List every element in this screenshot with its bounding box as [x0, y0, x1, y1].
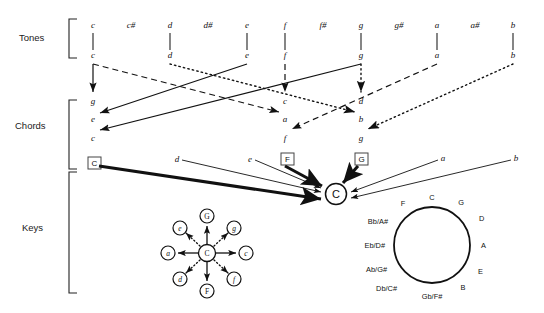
chord-g-major-member-g: g	[359, 133, 364, 143]
tones-chromatic-row: c c# d d# e f f# g g# a a# b	[91, 20, 516, 30]
tone-e: e	[245, 20, 249, 30]
level-label-chords: Chords	[15, 120, 46, 131]
key-source-b: b	[514, 153, 519, 163]
tone-a: a	[435, 20, 440, 30]
key-edge-from-C	[99, 166, 321, 199]
chord-group-c-major: g e c C	[88, 96, 101, 169]
star-edge-to-g	[214, 233, 228, 246]
cof-label-E: E	[478, 267, 483, 276]
tone-stems	[93, 33, 513, 50]
key-source-e: e	[248, 154, 252, 164]
cof-label-A: A	[481, 241, 486, 250]
level-label-keys: Keys	[22, 222, 43, 233]
star-node-center-label: C	[204, 249, 209, 258]
key-target[interactable]: C	[326, 184, 347, 205]
edge-g-to-c-chord	[100, 64, 361, 130]
chord-c-major-member-g: g	[91, 96, 96, 106]
star-node-f-label: f	[233, 275, 236, 284]
tone-c: c	[91, 20, 95, 30]
star-edge-to-d	[186, 260, 200, 273]
cof-label-D: D	[479, 214, 484, 223]
tone-to-chord-edges	[93, 64, 513, 130]
cof-label-F: F	[401, 199, 406, 208]
tone-b: b	[511, 20, 516, 30]
tone-d: d	[168, 20, 173, 30]
tone-nat-b: b	[511, 50, 516, 60]
chord-f-major-member-f: f	[284, 133, 288, 143]
diagram-canvas: Tones Chords Keys c c# d d# e f f# g g# …	[0, 0, 544, 313]
tone-f-sharp: f#	[319, 20, 327, 30]
edge-b-to-g-chord	[368, 64, 513, 129]
star-diagram: C G g c f F d a e	[161, 209, 253, 298]
level-label-tones: Tones	[19, 32, 45, 43]
key-source-labels: d e a b	[175, 153, 519, 164]
tone-g-sharp: g#	[395, 20, 405, 30]
bracket-keys	[69, 172, 77, 293]
cof-label-B: B	[461, 283, 466, 292]
edge-e-to-c-chord	[100, 64, 247, 113]
level-keys: Keys	[22, 172, 77, 293]
bracket-tones	[69, 19, 77, 58]
tone-c-sharp: c#	[127, 20, 136, 30]
tone-nat-g: g	[359, 50, 364, 60]
circle-of-fifths-ring[interactable]	[394, 207, 470, 283]
cof-label-EbDs: Eb/D#	[364, 241, 385, 250]
chord-g-major-member-b: b	[359, 114, 364, 124]
star-node-G-label: G	[204, 212, 210, 221]
cof-label-GbFs: Gb/F#	[422, 292, 443, 301]
chord-group-f-major: c a f F	[281, 96, 294, 165]
tone-f: f	[284, 20, 288, 30]
key-edge-from-G	[343, 166, 358, 183]
tone-d-sharp: d#	[204, 20, 214, 30]
level-tones: Tones	[19, 19, 77, 58]
cof-label-C: C	[429, 193, 435, 202]
tones-natural-row: c d e f g a b	[91, 50, 516, 60]
chord-f-major-member-c: c	[283, 96, 287, 106]
edge-a-to-f-chord	[292, 64, 437, 129]
tone-nat-d: d	[168, 50, 173, 60]
key-source-d: d	[175, 154, 180, 164]
chord-c-major-member-c: c	[91, 133, 95, 143]
star-edge-to-e	[186, 233, 200, 246]
key-target-label: C	[332, 188, 340, 200]
chord-c-major-root-label: C	[92, 159, 98, 168]
chord-g-major-member-d: d	[359, 96, 364, 106]
cof-label-DbCs: Db/C#	[376, 284, 398, 293]
chord-c-major-member-e: e	[91, 114, 95, 124]
tone-nat-c: c	[91, 50, 95, 60]
chord-f-major-root-label: F	[285, 155, 290, 164]
chord-f-major-member-a: a	[283, 114, 288, 124]
bracket-chords	[69, 100, 77, 169]
diagram-svg: Tones Chords Keys c c# d d# e f f# g g# …	[0, 0, 544, 313]
key-convergence-edges	[99, 160, 511, 199]
cof-label-G: G	[458, 198, 464, 207]
tone-a-sharp: a#	[471, 20, 481, 30]
edge-c-to-f-chord	[93, 64, 279, 112]
star-node-d-label: d	[178, 275, 182, 284]
tone-nat-e: e	[245, 50, 249, 60]
star-edge-to-f	[214, 260, 228, 273]
star-node-F-label: F	[205, 287, 209, 296]
tone-g: g	[359, 20, 364, 30]
circle-of-fifths: C G D A E B Gb/F# Db/C# Ab/G# Eb/D# Bb/A…	[364, 193, 486, 301]
star-node-c-label: c	[244, 249, 248, 258]
tone-nat-f: f	[284, 50, 288, 60]
star-node-a-label: a	[166, 249, 170, 258]
chord-group-g-major: d b g G	[355, 96, 368, 165]
star-node-e-label: e	[178, 224, 182, 233]
cof-label-BbAs: Bb/A#	[368, 217, 389, 226]
star-node-g-label: g	[232, 224, 236, 233]
tone-nat-a: a	[435, 50, 440, 60]
key-source-a: a	[441, 153, 446, 163]
chord-g-major-root-label: G	[358, 155, 364, 164]
level-chords: Chords	[15, 100, 77, 169]
key-edge-from-F	[285, 166, 322, 186]
cof-label-AbGs: Ab/G#	[366, 265, 388, 274]
